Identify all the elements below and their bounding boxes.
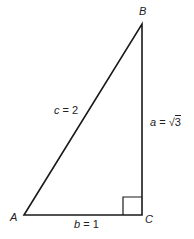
vertex-label-c: C — [145, 213, 153, 225]
side-label-a: a = √3 — [150, 116, 181, 128]
triangle-abc — [24, 24, 142, 215]
vertex-label-a: A — [10, 211, 17, 223]
sqrt-symbol: √ — [169, 116, 175, 128]
side-label-b: b = 1 — [74, 218, 99, 230]
side-a-eq: = — [156, 116, 169, 128]
side-label-c: c = 2 — [54, 104, 78, 116]
vertex-label-b: B — [139, 5, 146, 17]
side-c-value: = 2 — [60, 104, 79, 116]
side-b-value: = 1 — [80, 218, 99, 230]
side-a-radicand: 3 — [175, 115, 181, 128]
right-angle-marker — [123, 197, 142, 215]
